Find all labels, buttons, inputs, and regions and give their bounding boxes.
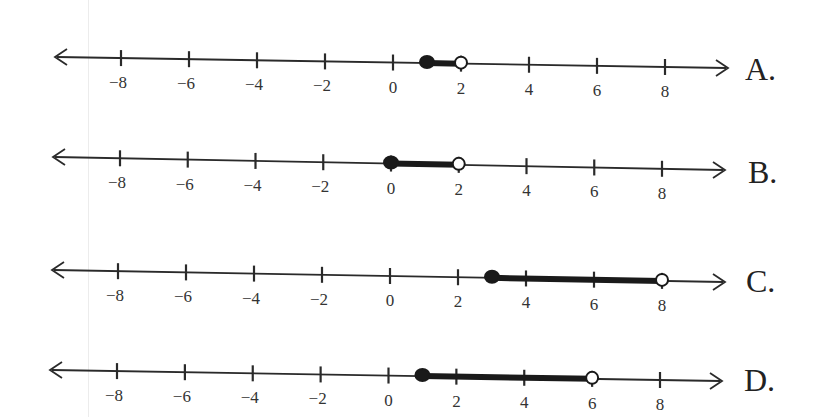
- tick-label: 4: [520, 393, 529, 412]
- tick-label: 2: [452, 392, 461, 411]
- closed-dot-icon: [384, 157, 398, 169]
- solution-segment: [391, 164, 459, 165]
- closed-dot-icon: [420, 56, 434, 68]
- choice-label: A.: [745, 51, 776, 87]
- tick-label: −4: [242, 289, 261, 308]
- solution-segment: [422, 376, 592, 379]
- tick-label: 0: [384, 391, 393, 410]
- tick-label: −2: [313, 76, 331, 95]
- tick-label: −6: [173, 387, 191, 406]
- tick-label: 4: [522, 293, 531, 312]
- tick-label: 0: [387, 179, 396, 198]
- open-dot-icon: [453, 158, 465, 170]
- choice-label: C.: [746, 263, 775, 299]
- tick-label: −4: [241, 388, 260, 407]
- solution-segment: [492, 278, 662, 281]
- tick-label: −8: [109, 73, 127, 92]
- tick-label: −6: [177, 74, 195, 93]
- tick-label: 0: [386, 291, 395, 310]
- tick-label: 8: [661, 82, 670, 101]
- tick-label: 8: [658, 296, 667, 315]
- open-dot-icon: [455, 57, 467, 69]
- tick-label: 2: [454, 292, 463, 311]
- tick-label: −8: [108, 173, 126, 192]
- tick-label: −4: [245, 75, 264, 94]
- open-dot-icon: [656, 274, 668, 286]
- tick-label: 6: [590, 182, 599, 201]
- axis-line: [52, 370, 720, 381]
- number-line-choices: −8−6−4−202468A.−8−6−4−202468B.−8−6−4−202…: [0, 0, 817, 417]
- tick-label: −8: [106, 286, 124, 305]
- tick-label: 4: [522, 181, 531, 200]
- tick-label: −4: [243, 176, 262, 195]
- tick-label: −2: [311, 177, 329, 196]
- number-line-option-d: −8−6−4−202468D.: [50, 362, 775, 414]
- tick-label: 6: [588, 394, 597, 413]
- tick-label: 4: [525, 80, 534, 99]
- tick-label: −6: [174, 287, 192, 306]
- tick-label: −6: [176, 175, 194, 194]
- choice-label: B.: [748, 154, 777, 190]
- tick-label: −2: [309, 389, 327, 408]
- number-line-option-a: −8−6−4−202468A.: [55, 49, 776, 101]
- number-line-option-c: −8−6−4−202468C.: [52, 262, 775, 315]
- tick-label: 6: [590, 295, 599, 314]
- tick-label: −2: [310, 290, 328, 309]
- number-line-option-b: −8−6−4−202468B.: [53, 149, 777, 203]
- closed-dot-icon: [415, 369, 429, 381]
- tick-label: 6: [593, 81, 602, 100]
- axis-line: [57, 57, 726, 68]
- tick-label: 2: [455, 180, 464, 199]
- tick-label: 8: [656, 395, 665, 414]
- tick-label: −8: [105, 386, 123, 405]
- closed-dot-icon: [485, 271, 499, 283]
- tick-label: 2: [457, 79, 466, 98]
- choice-label: D.: [744, 362, 775, 398]
- open-dot-icon: [586, 372, 598, 384]
- tick-label: 0: [389, 78, 398, 97]
- tick-label: 8: [658, 184, 667, 203]
